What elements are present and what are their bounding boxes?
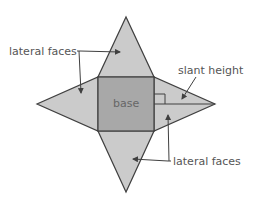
diagram-canvas: lateral faces slant height base lateral … bbox=[0, 0, 256, 200]
label-base: base bbox=[113, 97, 139, 110]
lateral-face-bottom bbox=[98, 131, 154, 192]
lateral-face-top bbox=[98, 17, 154, 77]
lateral-face-left bbox=[37, 77, 98, 131]
label-lateral-faces-bottom: lateral faces bbox=[173, 155, 241, 168]
label-slant-height: slant height bbox=[178, 64, 244, 77]
label-lateral-faces-top: lateral faces bbox=[9, 45, 77, 58]
pyramid-net-diagram: lateral faces slant height base lateral … bbox=[0, 0, 256, 200]
